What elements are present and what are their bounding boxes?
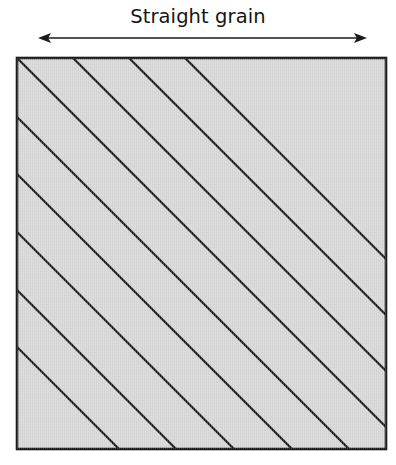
grain-diagram-canvas bbox=[0, 0, 396, 465]
grain-diagram-figure: Straight grain bbox=[0, 0, 396, 465]
straight-grain-arrow bbox=[38, 33, 367, 43]
fabric-swatch-fill bbox=[17, 58, 386, 449]
